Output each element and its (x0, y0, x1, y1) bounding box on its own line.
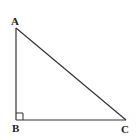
right-angle-marker-icon (16, 113, 23, 120)
vertex-label-b: B (12, 123, 19, 134)
right-triangle-figure: A B C (0, 0, 136, 140)
vertex-label-a: A (11, 16, 19, 27)
triangle-drawing (0, 0, 136, 140)
side-ac-hypotenuse (16, 28, 126, 120)
vertex-label-c: C (121, 124, 129, 135)
